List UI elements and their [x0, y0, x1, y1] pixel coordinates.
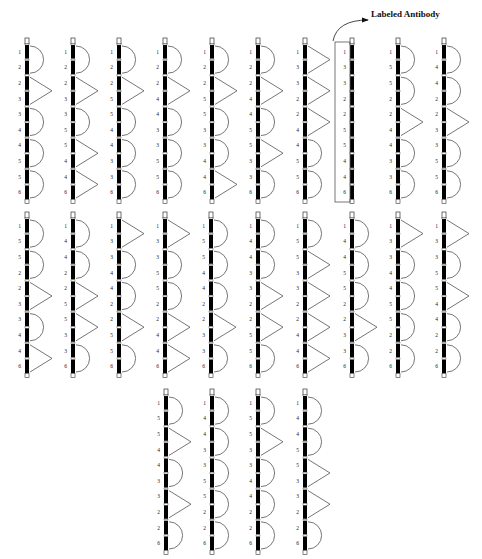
segment-number: 6: [110, 189, 113, 195]
loop-domain-icon: [30, 220, 44, 247]
segment-number: 5: [249, 415, 252, 421]
triangle-domain-icon: [261, 282, 283, 309]
segment-number: 2: [296, 301, 299, 307]
segment-number: 4: [18, 332, 21, 338]
triangle-domain-icon: [168, 77, 190, 104]
loop-domain-icon: [355, 282, 369, 309]
segment-number: 4: [156, 332, 159, 338]
segment-number: 2: [435, 111, 438, 117]
segment-number: 5: [389, 64, 392, 70]
loop-domain-icon: [168, 108, 182, 135]
antibody-strip: 1554433226: [157, 389, 191, 555]
segment-number: 1: [156, 223, 159, 229]
segment-number: 5: [18, 158, 21, 164]
triangle-domain-icon: [76, 282, 98, 309]
segment-number: 1: [110, 49, 113, 55]
segment-number: 4: [296, 127, 299, 133]
segment-number: 1: [249, 223, 252, 229]
segment-number: 5: [157, 431, 160, 437]
segment-number: 5: [296, 447, 299, 453]
antibody-strip: 1224433556: [156, 38, 190, 204]
segment-number: 5: [202, 238, 205, 244]
segment-number: 4: [343, 174, 346, 180]
triangle-domain-icon: [169, 491, 191, 518]
loop-domain-icon: [308, 171, 322, 198]
strips-layer: 1223344556122335544612255443361224433556…: [18, 38, 469, 555]
loop-domain-icon: [122, 251, 136, 278]
antibody-strip: 1552233446: [18, 212, 52, 378]
antibody-strip: 1335544226: [435, 212, 469, 378]
segment-number: 6: [343, 363, 346, 369]
segment-number: 3: [249, 285, 252, 291]
loop-domain-icon: [355, 220, 369, 247]
loop-domain-icon: [76, 220, 90, 247]
loop-domain-icon: [214, 345, 228, 372]
labeled-antibody-strip: 1332255446: [335, 38, 354, 204]
segment-number: 2: [18, 80, 21, 86]
segment-number: 3: [343, 348, 346, 354]
segment-number: 4: [249, 254, 252, 260]
segment-number: 5: [435, 270, 438, 276]
loop-domain-icon: [169, 459, 183, 486]
loop-domain-icon: [355, 345, 369, 372]
segment-number: 5: [343, 142, 346, 148]
segment-number: 6: [203, 540, 206, 546]
loop-domain-icon: [215, 46, 229, 73]
loop-domain-icon: [261, 345, 275, 372]
segment-number: 2: [203, 525, 206, 531]
loop-domain-icon: [76, 345, 90, 372]
segment-number: 5: [110, 348, 113, 354]
segment-number: 6: [156, 363, 159, 369]
segment-number: 2: [296, 96, 299, 102]
segment-number: 3: [157, 493, 160, 499]
segment-number: 3: [435, 238, 438, 244]
segment-number: 1: [64, 49, 67, 55]
segment-number: 3: [203, 462, 206, 468]
loop-domain-icon: [168, 140, 182, 167]
loop-domain-icon: [261, 171, 275, 198]
antibody-strip: 1552244336: [389, 38, 423, 204]
segment-number: 4: [202, 270, 205, 276]
antibody-strip: 1553322446: [296, 212, 330, 378]
segment-number: 2: [389, 332, 392, 338]
triangle-domain-icon: [122, 314, 144, 341]
segment-number: 4: [249, 96, 252, 102]
loop-domain-icon: [308, 522, 322, 549]
segment-number: 5: [64, 142, 67, 148]
segment-number: 5: [343, 127, 346, 133]
segment-number: 1: [249, 49, 252, 55]
segment-number: 4: [296, 142, 299, 148]
segment-number: 6: [203, 189, 206, 195]
antibody-diagram: 1223344556122335544612255443361224433556…: [0, 0, 482, 559]
segment-number: 3: [64, 332, 67, 338]
segment-number: 2: [156, 64, 159, 70]
loop-domain-icon: [308, 428, 322, 455]
segment-number: 4: [296, 431, 299, 437]
triangle-domain-icon: [30, 345, 52, 372]
segment-number: 4: [203, 158, 206, 164]
loop-domain-icon: [168, 282, 182, 309]
segment-number: 6: [64, 189, 67, 195]
loop-domain-icon: [214, 220, 228, 247]
antibody-strip: 1225544336: [110, 38, 144, 204]
segment-number: 5: [110, 332, 113, 338]
triangle-domain-icon: [30, 282, 52, 309]
segment-number: 1: [64, 223, 67, 229]
loop-domain-icon: [215, 140, 229, 167]
segment-number: 6: [110, 363, 113, 369]
antibody-strip: 1335522446: [156, 212, 190, 378]
triangle-domain-icon: [122, 220, 144, 247]
antibody-strip: 1223355446: [64, 38, 98, 204]
loop-domain-icon: [355, 251, 369, 278]
loop-domain-icon: [261, 251, 275, 278]
segment-number: 3: [64, 348, 67, 354]
loop-domain-icon: [214, 282, 228, 309]
loop-domain-icon: [30, 140, 44, 167]
triangle-domain-icon: [308, 345, 330, 372]
segment-number: 3: [389, 158, 392, 164]
segment-number: 5: [156, 158, 159, 164]
loop-domain-icon: [401, 345, 415, 372]
loop-domain-icon: [401, 251, 415, 278]
segment-number: 3: [435, 142, 438, 148]
segment-number: 5: [435, 285, 438, 291]
